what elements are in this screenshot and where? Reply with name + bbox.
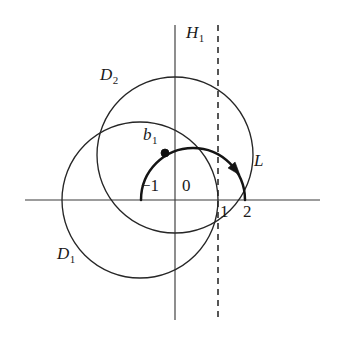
- label-d1-subscript: 1: [70, 253, 76, 265]
- label-h1-subscript: 1: [199, 32, 205, 44]
- figure-container: H1 D2 D1 b1 L −1 0 1 2: [0, 0, 341, 346]
- label-b1: b1: [143, 126, 157, 143]
- label-h1: H1: [186, 24, 204, 41]
- tick-label-minus-1: −1: [141, 177, 159, 194]
- label-b1-base: b: [143, 125, 152, 144]
- tick-label-2: 2: [243, 203, 252, 220]
- label-d2-subscript: 2: [113, 74, 119, 86]
- geometry-diagram: [0, 0, 341, 346]
- label-h1-base: H: [186, 23, 198, 42]
- label-d1-base: D: [57, 244, 69, 263]
- label-d2-base: D: [100, 65, 112, 84]
- tick-label-0: 0: [182, 177, 191, 194]
- label-d1: D1: [57, 245, 75, 262]
- tick-label-1: 1: [220, 203, 229, 220]
- label-arc-l: L: [254, 152, 263, 169]
- label-d2: D2: [100, 66, 118, 83]
- point-b1-dot: [161, 149, 169, 157]
- label-b1-subscript: 1: [152, 134, 158, 146]
